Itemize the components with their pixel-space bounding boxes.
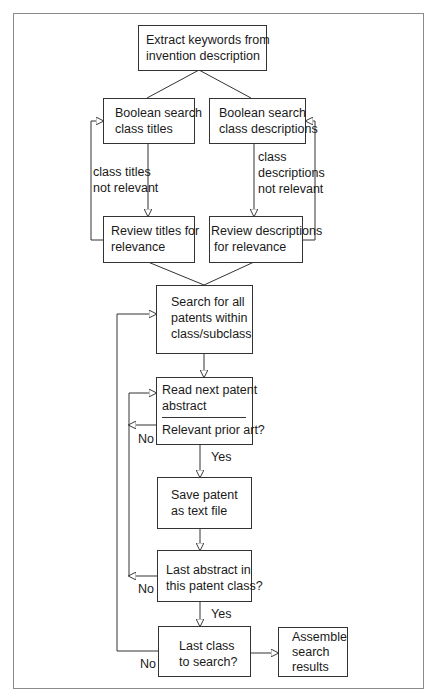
node-text: relevance bbox=[111, 239, 187, 255]
edge-label-titles-not-relevant: class titles not relevant bbox=[93, 164, 158, 196]
label-text: not relevant bbox=[258, 181, 325, 197]
edge-label-relevant-no: No bbox=[138, 431, 154, 447]
node-review-descriptions: Review descriptions for relevance bbox=[209, 216, 303, 263]
node-text: Read next patent bbox=[162, 382, 246, 398]
node-text: Boolean search bbox=[219, 105, 298, 121]
node-text: patents within bbox=[171, 310, 245, 326]
node-boolean-search-descriptions: Boolean search class descriptions bbox=[209, 98, 306, 144]
edge-label-descriptions-not-relevant: class descriptions not relevant bbox=[258, 149, 325, 197]
node-text: Extract keywords from bbox=[146, 32, 259, 48]
node-last-abstract: Last abstract in this patent class? bbox=[157, 550, 252, 602]
node-divider bbox=[162, 417, 246, 418]
node-boolean-search-titles: Boolean search class titles bbox=[103, 98, 195, 144]
node-extract-keywords: Extract keywords from invention descript… bbox=[138, 25, 267, 71]
node-save-patent: Save patent as text file bbox=[157, 477, 252, 529]
node-review-titles: Review titles for relevance bbox=[103, 216, 195, 263]
node-text: results bbox=[292, 660, 340, 675]
edge-label-relevant-yes: Yes bbox=[211, 449, 231, 465]
node-last-class: Last class to search? bbox=[158, 626, 251, 677]
node-text: Search for all bbox=[171, 294, 245, 310]
node-text: class titles bbox=[115, 121, 187, 137]
node-text: to search? bbox=[179, 654, 243, 670]
edge-label-last-abstract-yes: Yes bbox=[211, 606, 231, 622]
node-text: search bbox=[292, 645, 340, 660]
label-text: descriptions bbox=[258, 165, 325, 181]
node-text: Last class bbox=[179, 638, 243, 654]
node-text: Boolean search bbox=[115, 105, 187, 121]
node-text: Review titles for bbox=[111, 223, 187, 239]
label-text: not relevant bbox=[93, 180, 158, 196]
label-text: class titles bbox=[93, 164, 158, 180]
node-text: class/subclass bbox=[171, 326, 245, 342]
node-text: invention description bbox=[146, 48, 259, 64]
node-text: this patent class? bbox=[166, 578, 244, 594]
edge-label-last-abstract-no: No bbox=[138, 581, 154, 597]
node-text: Last abstract in bbox=[166, 562, 244, 578]
node-text: abstract bbox=[162, 398, 246, 414]
node-text: as text file bbox=[171, 503, 244, 519]
edge-label-last-class-no: No bbox=[140, 656, 156, 672]
node-assemble-results: Assemble search results bbox=[278, 627, 348, 677]
node-search-all-patents: Search for all patents within class/subc… bbox=[156, 285, 253, 354]
node-text: class descriptions bbox=[219, 121, 298, 137]
node-read-abstract: Read next patent abstract Relevant prior… bbox=[156, 377, 253, 445]
label-text: class bbox=[258, 149, 325, 165]
node-text: Review descriptions bbox=[211, 223, 302, 239]
node-text: Save patent bbox=[171, 487, 244, 503]
node-question: Relevant prior art? bbox=[162, 422, 246, 438]
node-text: Assemble bbox=[292, 630, 340, 645]
node-text: for relevance bbox=[211, 239, 302, 255]
